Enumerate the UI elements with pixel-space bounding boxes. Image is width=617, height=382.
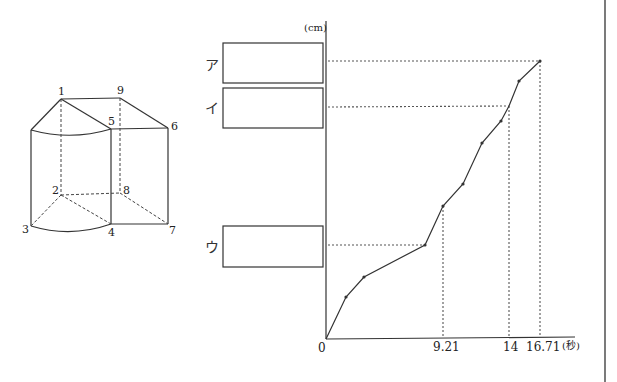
arc-bottom xyxy=(31,224,111,232)
answer-box-i[interactable] xyxy=(223,88,323,128)
solid-figure: 1 2 3 4 5 6 7 8 9 xyxy=(22,84,178,239)
graph: (cm) 0 9.21 14 16.71 (秒) xyxy=(304,21,580,355)
edge-9-6 xyxy=(120,98,168,128)
answer-box-a[interactable] xyxy=(223,43,323,83)
x-tick-9-21: 9.21 xyxy=(433,340,460,354)
hidden-edge-2-4 xyxy=(61,195,111,224)
ref-line-i-horizontal xyxy=(328,106,509,107)
answer-label-a: ア xyxy=(205,57,219,73)
vertex-label-5: 5 xyxy=(108,115,115,128)
x-unit-label: (秒) xyxy=(562,339,580,351)
edge-1-9 xyxy=(61,98,120,99)
vertex-label-2: 2 xyxy=(52,184,59,197)
origin-label: 0 xyxy=(318,341,326,355)
problem-figure: 1 2 3 4 5 6 7 8 9 ア イ ウ (cm) 0 9.21 14 1… xyxy=(0,0,617,382)
vertex-label-8: 8 xyxy=(123,184,130,197)
x-tick-14: 14 xyxy=(503,340,519,354)
hidden-edge-2-3 xyxy=(31,195,61,226)
vertex-label-7: 7 xyxy=(169,224,176,237)
answer-label-i: イ xyxy=(205,100,219,116)
water-level-curve xyxy=(326,61,540,339)
x-axis xyxy=(326,337,575,339)
edge-1-arc-top-left xyxy=(31,99,61,130)
y-unit-label: (cm) xyxy=(304,22,327,33)
answer-label-u: ウ xyxy=(205,239,219,255)
vertex-label-9: 9 xyxy=(117,84,124,97)
answer-boxes: ア イ ウ xyxy=(205,43,323,267)
vertex-label-4: 4 xyxy=(108,226,115,239)
x-tick-16-71: 16.71 xyxy=(526,340,560,354)
answer-box-u[interactable] xyxy=(223,226,323,267)
hidden-edge-8-7 xyxy=(120,193,168,224)
edge-1-5 xyxy=(61,99,111,129)
arc-top xyxy=(31,129,111,135)
vertex-label-6: 6 xyxy=(171,120,178,133)
vertex-label-1: 1 xyxy=(58,85,65,98)
vertex-label-3: 3 xyxy=(22,223,29,236)
